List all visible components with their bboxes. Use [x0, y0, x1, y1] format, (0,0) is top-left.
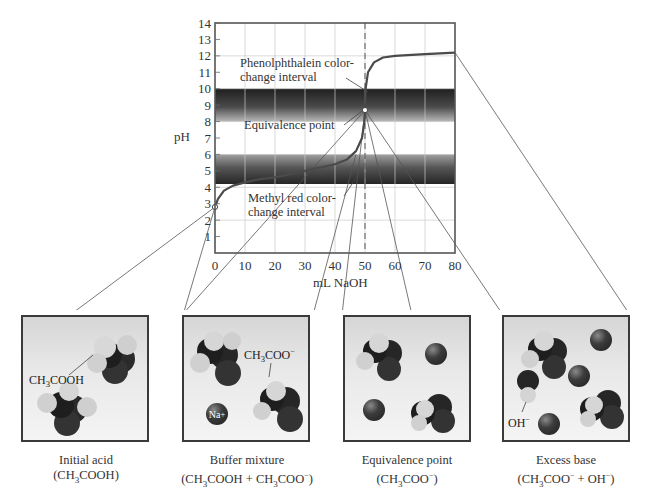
- methyl-red-label-line2: change interval: [248, 205, 325, 219]
- x-tick-label: 50: [359, 258, 372, 273]
- caption-equivalence-point: Equivalence point (CH3COO−): [322, 453, 492, 492]
- x-tick-label: 20: [269, 258, 282, 273]
- y-tick-label: 5: [205, 163, 212, 178]
- x-tick-label: 10: [239, 258, 252, 273]
- phenolphthalein-label-line2: change interval: [240, 70, 317, 84]
- x-tick-label: 30: [299, 258, 312, 273]
- methyl-red-label-line1: Methyl red color-: [248, 191, 336, 205]
- beaker-initial-acid: CH3COOH: [21, 315, 149, 442]
- connector-line: [365, 110, 503, 310]
- y-tick-label: 14: [198, 16, 212, 31]
- x-tick-label: 0: [212, 258, 219, 273]
- caption-buffer-mixture: Buffer mixture (CH3COOH + CH3COO−): [162, 453, 332, 492]
- caption-formula: (CH3COO−): [322, 468, 492, 492]
- y-tick-label: 12: [198, 48, 211, 63]
- beaker-buffer-mixture: CH3COO− Na+: [182, 315, 310, 442]
- equivalence-point-label: Equivalence point: [244, 118, 335, 132]
- sodium-ion: [590, 329, 612, 351]
- caption-formula: (CH3COO− + OH−): [481, 468, 645, 492]
- equivalence-point-marker: [362, 107, 367, 112]
- connector-line: [455, 53, 630, 310]
- molecule-label-hydroxide: OH−: [508, 415, 530, 431]
- y-tick-label: 8: [205, 114, 212, 129]
- caption-title: Excess base: [481, 453, 645, 468]
- caption-title: Equivalence point: [322, 453, 492, 468]
- y-tick-label: 1: [205, 229, 212, 244]
- x-tick-label: 60: [389, 258, 402, 273]
- phenolphthalein-label-line1: Phenolphthalein color-: [240, 56, 354, 70]
- y-tick-label: 6: [205, 147, 212, 162]
- sodium-ion: [568, 365, 590, 387]
- caption-title: Buffer mixture: [162, 453, 332, 468]
- y-tick-label: 9: [205, 98, 212, 113]
- y-tick-label: 11: [198, 65, 211, 80]
- sodium-ion: [538, 413, 560, 435]
- x-tick-label: 80: [449, 258, 462, 273]
- titration-chart: 123456789101112131401020304050607080: [0, 0, 645, 310]
- caption-title: Initial acid: [1, 453, 171, 468]
- y-tick-label: 13: [198, 32, 211, 47]
- beaker-excess-base: OH−: [502, 315, 630, 442]
- beaker-equivalence-point: [343, 315, 471, 442]
- titration-figure: 123456789101112131401020304050607080 pH …: [0, 0, 645, 497]
- caption-initial-acid: Initial acid (CH3COOH): [1, 453, 171, 488]
- caption-excess-base: Excess base (CH3COO− + OH−): [481, 453, 645, 492]
- molecule-label-acetate: CH3COO−: [244, 347, 295, 364]
- caption-formula: (CH3COOH): [1, 468, 171, 488]
- y-tick-label: 2: [205, 213, 212, 228]
- y-tick-label: 3: [205, 196, 212, 211]
- sodium-ion: [363, 399, 385, 421]
- y-tick-label: 10: [198, 81, 211, 96]
- x-tick-label: 40: [329, 258, 342, 273]
- y-tick-label: 7: [205, 131, 212, 146]
- connector-line: [365, 110, 412, 310]
- sodium-ion: [425, 343, 447, 365]
- caption-formula: (CH3COOH + CH3COO−): [162, 468, 332, 492]
- buffer-molecules: [184, 317, 308, 440]
- y-axis-label: pH: [174, 130, 190, 144]
- molecule-label-acetic-acid: CH3COOH: [29, 373, 84, 389]
- x-tick-label: 70: [419, 258, 432, 273]
- x-axis-label: mL NaOH: [313, 276, 368, 290]
- connector-line: [70, 207, 215, 310]
- hydroxide-ion: [517, 370, 539, 412]
- acetate-molecules: [345, 317, 469, 440]
- sodium-ion: Na+: [206, 403, 228, 425]
- y-tick-label: 4: [205, 180, 212, 195]
